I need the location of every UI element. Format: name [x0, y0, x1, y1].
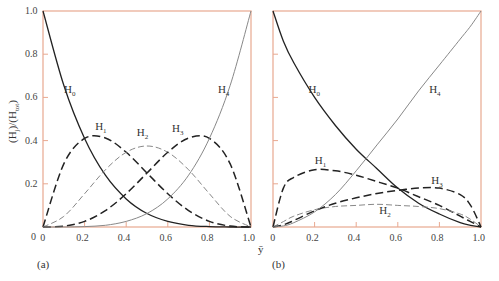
series-h3	[273, 188, 481, 227]
x-tick-label: 0.8	[431, 232, 444, 243]
x-tick-label: 0.4	[348, 232, 361, 243]
y-tick-label: 0.6	[25, 91, 38, 102]
x-axis-label: ȳ	[258, 243, 264, 255]
y-tick-label: 0.4	[25, 135, 38, 146]
curve-label-h2: H2	[137, 126, 148, 141]
x-tick-label: 0.6	[159, 232, 172, 243]
x-tick-label: 0.2	[306, 232, 319, 243]
series-h2	[43, 146, 251, 227]
series-h0	[43, 11, 251, 227]
x-tick-label: 0.2	[76, 232, 89, 243]
curve-label-h1: H1	[315, 154, 326, 169]
y-tick-label: 1.0	[25, 5, 38, 16]
x-tick-label: 0.8	[201, 232, 214, 243]
plot-frame	[43, 11, 251, 227]
series-h0	[273, 11, 481, 227]
series-h4	[43, 11, 251, 227]
panel-a	[43, 11, 251, 227]
plot-frame	[273, 11, 481, 227]
x-tick-label: 0	[270, 232, 275, 243]
x-tick-label: 0.6	[389, 232, 402, 243]
curve-label-h1: H1	[95, 120, 106, 135]
x-tick-label: 1.0	[473, 232, 486, 243]
series-h2	[273, 204, 481, 227]
x-tick-label: 0.4	[118, 232, 131, 243]
panel-label-a: (a)	[37, 258, 49, 270]
curve-label-h2: H2	[379, 204, 390, 219]
y-tick-label: 0.2	[25, 178, 38, 189]
curve-label-h3: H3	[172, 122, 183, 137]
panel-b	[273, 11, 481, 227]
series-h4	[273, 11, 481, 227]
curve-label-h0: H0	[309, 83, 320, 98]
curve-label-h3: H3	[431, 174, 442, 189]
y-tick-label: 0.8	[25, 48, 38, 59]
x-tick-label: 0	[40, 232, 45, 243]
curve-label-h4: H4	[429, 83, 440, 98]
panel-label-b: (b)	[272, 258, 285, 270]
y-axis-label: (Hj)/(Htot)	[6, 100, 21, 143]
x-tick-label: 1.0	[243, 232, 256, 243]
curve-label-h4: H4	[218, 83, 229, 98]
curve-label-h0: H0	[64, 83, 75, 98]
origin-label: 0	[31, 231, 36, 242]
